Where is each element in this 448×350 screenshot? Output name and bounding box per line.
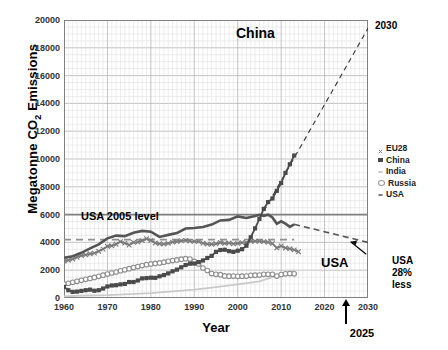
data-point <box>201 258 205 262</box>
data-point <box>110 283 114 287</box>
legend-item-china[interactable]: China <box>378 155 416 167</box>
data-point <box>210 254 214 258</box>
open-circle-marker <box>378 180 385 186</box>
data-point <box>192 261 196 265</box>
data-point <box>153 276 157 280</box>
data-point <box>205 256 209 260</box>
y-tick-label: 2000 <box>8 265 60 275</box>
data-point <box>92 289 96 293</box>
data-point <box>118 282 122 286</box>
annotation-year-2025: 2025 <box>350 327 374 339</box>
legend-item-eu28[interactable]: EU28 <box>378 143 416 155</box>
data-point <box>136 278 140 282</box>
legend-item-label: Russia <box>388 178 416 190</box>
data-point <box>123 282 127 286</box>
data-point <box>188 262 192 266</box>
data-point <box>166 271 170 275</box>
y-tick-label: 4000 <box>8 237 60 247</box>
data-point <box>257 217 261 221</box>
data-point <box>249 235 253 239</box>
data-point <box>244 244 248 248</box>
annotation-usa-2005-level: USA 2005 level <box>81 210 159 222</box>
legend-item-russia[interactable]: Russia <box>378 178 416 190</box>
x-tick-label: 2010 <box>271 302 291 312</box>
chart-figure: Megatonne CO2 Emissions 0200040006000800… <box>0 0 448 350</box>
x-tick-label: 1970 <box>97 302 117 312</box>
data-point <box>205 268 210 273</box>
data-point <box>71 290 75 294</box>
y-axis-ticks: 0200040006000800010000120001400016000180… <box>4 0 60 350</box>
y-tick-label: 12000 <box>8 126 60 136</box>
data-point <box>114 283 118 287</box>
annotation-arrow-2025 <box>345 304 347 324</box>
data-point <box>175 268 179 272</box>
annotation-usa-28-less-line2: 28% <box>392 267 442 279</box>
data-point <box>97 288 101 292</box>
y-tick-label: 6000 <box>8 210 60 220</box>
legend-item-india[interactable]: India <box>378 166 416 178</box>
y-tick-label: 8000 <box>8 182 60 192</box>
data-point <box>288 162 292 166</box>
data-point <box>84 288 88 292</box>
data-point <box>131 280 135 284</box>
annotation-arrow-2025-head <box>342 299 350 306</box>
y-tick-label: 18000 <box>8 43 60 53</box>
dot-marker <box>378 171 383 174</box>
data-point <box>218 248 222 252</box>
data-point <box>262 207 266 211</box>
legend-item-label: USA <box>386 189 404 201</box>
annotation-china: China <box>236 25 275 41</box>
data-point <box>214 250 218 254</box>
data-point <box>270 196 274 200</box>
data-point <box>170 269 174 273</box>
annotation-usa-28-less-line1: USA <box>392 255 442 267</box>
data-point <box>184 263 188 267</box>
projection-line-usa-target <box>294 224 368 242</box>
filled-square-marker <box>378 158 383 162</box>
data-point <box>240 247 244 251</box>
data-point <box>283 171 287 175</box>
x-tick-label: 1960 <box>54 302 74 312</box>
data-point <box>201 266 206 271</box>
y-tick-label: 0 <box>8 293 60 303</box>
x-tick-label: 1980 <box>141 302 161 312</box>
annotation-usa-28-less: USA 28% less <box>392 255 442 291</box>
annotation-usa: USA <box>321 255 348 270</box>
data-point <box>227 249 231 253</box>
y-tick-label: 20000 <box>8 15 60 25</box>
y-tick-label: 10000 <box>8 154 60 164</box>
data-point <box>275 189 279 193</box>
data-point <box>105 284 109 288</box>
data-point <box>140 276 144 280</box>
data-point <box>157 274 161 278</box>
data-point <box>292 272 297 277</box>
legend-item-label: EU28 <box>386 143 407 155</box>
data-point <box>64 285 66 289</box>
data-point <box>253 226 257 230</box>
data-point <box>197 260 201 264</box>
data-point <box>279 181 283 185</box>
data-point <box>127 280 131 284</box>
data-point <box>144 276 148 280</box>
annotation-arrow-shaft <box>351 242 367 255</box>
annotation-year-2030: 2030 <box>375 20 397 31</box>
data-point <box>75 290 79 294</box>
data-point <box>101 286 105 290</box>
y-tick-label: 16000 <box>8 71 60 81</box>
data-point <box>236 249 240 253</box>
data-point <box>231 250 235 254</box>
data-point <box>292 153 296 157</box>
data-point <box>149 276 153 280</box>
data-point <box>223 248 227 252</box>
dot-marker <box>378 194 383 197</box>
y-tick-label: 14000 <box>8 98 60 108</box>
legend: EU28ChinaIndiaRussiaUSA <box>378 143 416 201</box>
x-tick-label: 2030 <box>358 302 378 312</box>
legend-item-label: China <box>386 155 410 167</box>
x-tick-label: 1990 <box>184 302 204 312</box>
data-point <box>179 265 183 269</box>
legend-item-usa[interactable]: USA <box>378 189 416 201</box>
annotation-usa-28-less-line3: less <box>392 279 442 291</box>
x-marker <box>378 146 383 151</box>
legend-item-label: India <box>386 166 406 178</box>
